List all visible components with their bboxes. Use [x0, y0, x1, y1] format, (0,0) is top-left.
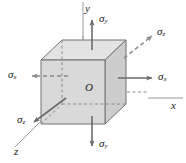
origin-label: O — [85, 82, 93, 93]
sigma-y-bottom-subscript: y — [104, 142, 107, 150]
sigma-y-top-label: σy — [99, 13, 108, 25]
sigma-x-left-subscript: x — [13, 73, 16, 81]
sigma-z-upper-subscript: z — [162, 30, 165, 38]
sigma-x-right-label: σx — [158, 71, 167, 83]
sigma-z-upper-label: σz — [157, 26, 165, 38]
sigma-z-upper-arrow — [124, 36, 152, 58]
sigma-z-lower-label: σz — [17, 114, 25, 126]
x-axis-label: x — [171, 100, 176, 111]
sigma-x-right-subscript: x — [163, 75, 166, 83]
y-axis-label: y — [85, 3, 90, 14]
stress-element-figure: y x z O σy σy σx σx σz σz — [0, 0, 186, 163]
sigma-z-lower-subscript: z — [22, 118, 25, 126]
sigma-x-left-label: σx — [8, 69, 17, 81]
cube-body — [41, 40, 126, 124]
z-axis-label: z — [14, 146, 18, 157]
sigma-y-bottom-label: σy — [99, 138, 108, 150]
sigma-y-top-subscript: y — [104, 17, 107, 25]
